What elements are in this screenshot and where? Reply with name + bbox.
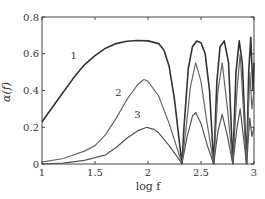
- series-3-line: [42, 109, 254, 164]
- x-tick-label: 3: [251, 167, 257, 178]
- series-3-label: 3: [134, 109, 140, 120]
- y-tick-label: 0: [33, 159, 39, 170]
- series-1-label: 1: [71, 50, 77, 61]
- y-axis-label: α(f): [0, 82, 13, 102]
- x-axis-label: log f: [136, 180, 162, 193]
- x-tick-label: 1.5: [87, 167, 103, 178]
- axes: 11.522.5300.20.40.60.8: [23, 12, 257, 179]
- y-tick-label: 0.4: [23, 85, 39, 96]
- y-tick-label: 0.2: [23, 122, 39, 133]
- line-chart: 11.522.5300.20.40.60.8 123 log f α(f): [0, 0, 265, 199]
- x-tick-label: 2.5: [193, 167, 209, 178]
- curve-labels: 123: [71, 50, 141, 120]
- plot-frame: [42, 17, 254, 164]
- series-2-line: [42, 54, 254, 164]
- series-2-label: 2: [115, 87, 121, 98]
- y-tick-label: 0.6: [23, 48, 39, 59]
- x-tick-label: 2: [145, 167, 151, 178]
- x-tick-label: 1: [39, 167, 45, 178]
- y-tick-label: 0.8: [23, 12, 39, 23]
